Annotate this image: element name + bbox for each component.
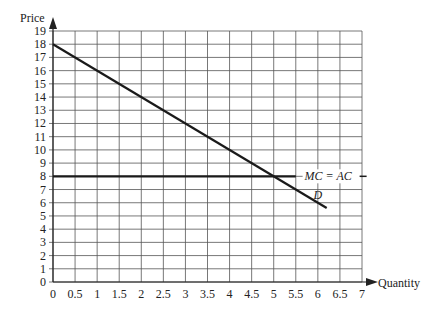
y-tick-label: 14: [34, 90, 46, 104]
x-tick-label: 1.5: [112, 287, 127, 301]
annotation-label: D: [312, 188, 322, 202]
x-tick-label: 6.5: [332, 287, 347, 301]
x-tick-label: 1: [94, 287, 100, 301]
chart: 012345678910111213141516171819 00.511.52…: [0, 0, 435, 312]
x-tick-label: 0: [50, 287, 56, 301]
annotation-label: MC = AC: [304, 169, 353, 183]
x-tick-label: 2.5: [156, 287, 171, 301]
x-tick-label: 4: [227, 287, 233, 301]
x-tick-label: 5.5: [288, 287, 303, 301]
y-tick-label: 9: [40, 156, 46, 170]
y-axis-label: Price: [20, 11, 45, 25]
series-lines: [53, 44, 327, 208]
y-tick-label: 13: [34, 103, 46, 117]
x-tick-label: 0.5: [68, 287, 83, 301]
x-tick-label: 5: [271, 287, 277, 301]
x-tick-label: 7: [359, 287, 365, 301]
y-tick-label: 12: [34, 116, 46, 130]
y-tick-label: 8: [40, 169, 46, 183]
x-tick-label: 6: [315, 287, 321, 301]
y-tick-label: 10: [34, 143, 46, 157]
y-tick-label: 11: [34, 130, 46, 144]
y-tick-label: 3: [40, 235, 46, 249]
y-tick-label: 0: [40, 275, 46, 289]
x-tick-label: 3: [182, 287, 188, 301]
x-tick-label: 2: [138, 287, 144, 301]
x-axis-label: Quantity: [378, 276, 420, 290]
y-tick-label: 18: [34, 37, 46, 51]
x-tick-labels: 00.511.522.533.544.555.566.57: [50, 287, 365, 301]
y-tick-label: 5: [40, 209, 46, 223]
annotations: MC = ACD: [303, 169, 367, 201]
y-tick-label: 7: [40, 183, 46, 197]
y-tick-labels: 012345678910111213141516171819: [34, 24, 46, 289]
x-tick-label: 4.5: [244, 287, 259, 301]
y-tick-label: 1: [40, 262, 46, 276]
y-axis-arrow-icon: [49, 17, 57, 29]
y-tick-label: 4: [40, 222, 46, 236]
y-tick-label: 2: [40, 249, 46, 263]
y-tick-label: 6: [40, 196, 46, 210]
x-tick-label: 3.5: [200, 287, 215, 301]
x-axis-arrow-icon: [366, 278, 378, 286]
y-tick-label: 17: [34, 50, 46, 64]
y-tick-label: 19: [34, 24, 46, 38]
y-tick-label: 16: [34, 64, 46, 78]
series-line-d: [53, 44, 327, 208]
y-tick-label: 15: [34, 77, 46, 91]
